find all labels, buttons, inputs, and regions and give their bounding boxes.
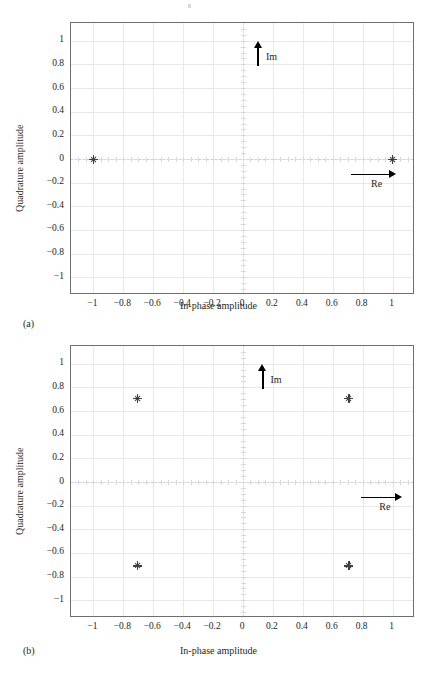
- y-tick-label: −1: [24, 271, 64, 282]
- minor-tick-x: [93, 480, 94, 485]
- minor-tick-x: [303, 157, 304, 162]
- im-annotation-label: Im: [270, 374, 281, 385]
- minor-tick-x: [138, 157, 139, 162]
- minor-tick-y: [241, 594, 246, 595]
- minor-tick-x: [370, 480, 371, 485]
- minor-tick-y: [241, 476, 246, 477]
- minor-tick-y: [241, 517, 246, 518]
- imaginary-axis-arrow-icon: [252, 41, 263, 66]
- plot-frame-b: ImRe: [70, 345, 414, 617]
- minor-tick-y: [241, 212, 246, 213]
- minor-tick-x: [213, 480, 214, 485]
- minor-tick-x: [250, 480, 251, 485]
- minor-tick-x: [280, 157, 281, 162]
- minor-tick-x: [161, 480, 162, 485]
- minor-tick-x: [258, 157, 259, 162]
- minor-tick-x: [265, 157, 266, 162]
- minor-tick-x: [258, 480, 259, 485]
- minor-tick-x: [183, 480, 184, 485]
- y-tick-label: −0.2: [24, 176, 64, 187]
- minor-tick-y: [241, 165, 246, 166]
- minor-tick-y: [241, 435, 246, 436]
- minor-tick-y: [241, 94, 246, 95]
- minor-tick-y: [241, 600, 246, 601]
- minor-tick-y: [241, 41, 246, 42]
- re-annotation-label: Re: [371, 178, 382, 189]
- minor-tick-x: [408, 480, 409, 485]
- minor-tick-x: [400, 480, 401, 485]
- minor-tick-x: [168, 157, 169, 162]
- y-tick-label: −0.4: [24, 200, 64, 211]
- minor-tick-x: [273, 480, 274, 485]
- minor-tick-x: [86, 157, 87, 162]
- minor-tick-y: [241, 441, 246, 442]
- minor-tick-y: [241, 571, 246, 572]
- minor-tick-y: [241, 254, 246, 255]
- minor-tick-y: [241, 260, 246, 261]
- minor-tick-x: [198, 157, 199, 162]
- minor-tick-y: [241, 547, 246, 548]
- minor-tick-x: [146, 157, 147, 162]
- minor-tick-x: [295, 157, 296, 162]
- y-tick-label: 0.6: [24, 82, 64, 93]
- minor-tick-y: [241, 206, 246, 207]
- minor-tick-x: [146, 480, 147, 485]
- minor-tick-y: [241, 606, 246, 607]
- constellation-point: [133, 394, 142, 403]
- minor-tick-x: [153, 480, 154, 485]
- minor-tick-y: [241, 171, 246, 172]
- y-tick-label: −0.8: [24, 247, 64, 258]
- minor-tick-y: [241, 565, 246, 566]
- minor-tick-x: [303, 480, 304, 485]
- figure-panel-b: ImRe −1−0.8−0.6−0.4−0.200.20.40.60.81 10…: [0, 330, 437, 675]
- minor-tick-x: [101, 157, 102, 162]
- minor-tick-y: [241, 141, 246, 142]
- minor-tick-x: [318, 157, 319, 162]
- minor-tick-y: [241, 506, 246, 507]
- minor-tick-x: [310, 157, 311, 162]
- minor-tick-x: [295, 480, 296, 485]
- minor-tick-y: [241, 124, 246, 125]
- plot-area-b: ImRe: [71, 346, 413, 616]
- y-tick-label: 0.2: [24, 129, 64, 140]
- y-axis-label-b: Quadrature amplitude: [14, 448, 25, 535]
- minor-tick-y: [241, 183, 246, 184]
- minor-tick-x: [116, 480, 117, 485]
- minor-tick-x: [370, 157, 371, 162]
- minor-tick-x: [78, 480, 79, 485]
- constellation-point: [89, 155, 98, 164]
- y-tick-label: −0.8: [24, 570, 64, 581]
- minor-tick-y: [241, 177, 246, 178]
- minor-tick-x: [288, 157, 289, 162]
- minor-tick-x: [408, 157, 409, 162]
- minor-tick-y: [241, 58, 246, 59]
- minor-tick-y: [241, 452, 246, 453]
- minor-tick-y: [241, 194, 246, 195]
- minor-tick-x: [86, 480, 87, 485]
- minor-tick-x: [221, 480, 222, 485]
- minor-tick-y: [241, 470, 246, 471]
- minor-tick-x: [393, 480, 394, 485]
- y-tick-label: 1: [24, 34, 64, 45]
- minor-tick-y: [241, 147, 246, 148]
- x-axis-label-b: In-phase amplitude: [0, 645, 437, 656]
- minor-tick-x: [348, 480, 349, 485]
- minor-tick-y: [241, 153, 246, 154]
- minor-tick-x: [236, 480, 237, 485]
- minor-tick-x: [176, 157, 177, 162]
- minor-tick-y: [241, 82, 246, 83]
- minor-tick-x: [325, 157, 326, 162]
- minor-tick-y: [241, 523, 246, 524]
- minor-tick-x: [221, 157, 222, 162]
- minor-tick-x: [250, 157, 251, 162]
- minor-tick-x: [123, 480, 124, 485]
- minor-tick-x: [378, 480, 379, 485]
- subfigure-caption-a: (a): [23, 318, 34, 329]
- minor-tick-y: [241, 135, 246, 136]
- minor-tick-x: [325, 480, 326, 485]
- minor-tick-y: [241, 35, 246, 36]
- minor-tick-y: [241, 405, 246, 406]
- minor-tick-x: [280, 480, 281, 485]
- minor-tick-y: [241, 289, 246, 290]
- subfigure-caption-b: (b): [23, 645, 35, 656]
